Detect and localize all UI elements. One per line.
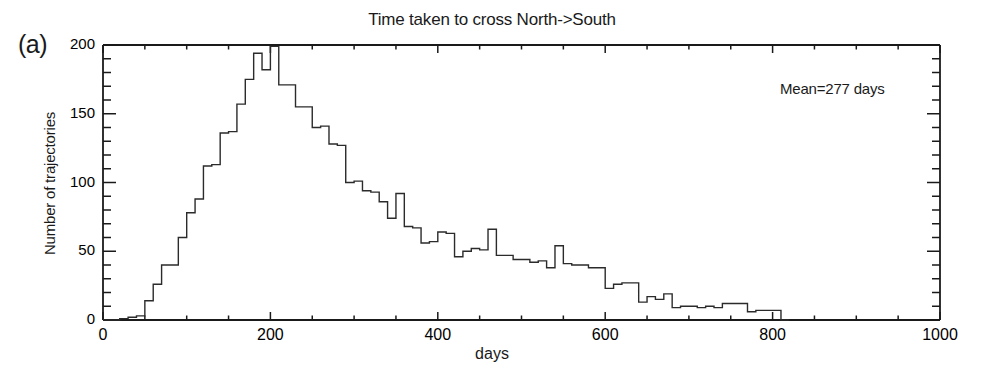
axis-tick-marks <box>103 45 940 320</box>
chart-figure: Time taken to cross North->South (a) Num… <box>0 0 984 378</box>
histogram-step-line <box>103 46 789 320</box>
chart-plot-area <box>0 0 984 378</box>
axis-frame <box>103 45 940 320</box>
